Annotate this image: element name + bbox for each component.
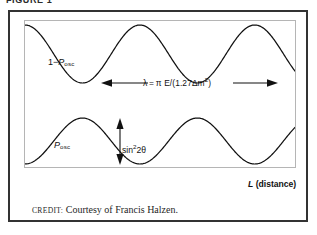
sin-text: sin bbox=[122, 145, 133, 155]
curve-label-prefix: 1− bbox=[48, 57, 58, 67]
credit-line: CREDIT: Courtesy of Francis Halzen. bbox=[32, 204, 178, 215]
wavelength-arrow-left-head bbox=[101, 79, 112, 87]
amplitude-arrow-bottom-head bbox=[116, 154, 123, 165]
mass-symbol: m bbox=[198, 78, 205, 88]
amplitude-arrow-top-head bbox=[116, 118, 123, 129]
wavelength-arrow-right-head bbox=[267, 79, 278, 87]
curve-label-subscript: osc bbox=[60, 143, 70, 150]
curve-label-subscript: osc bbox=[64, 60, 74, 67]
credit-text: Courtesy of Francis Halzen. bbox=[66, 204, 178, 215]
curve-label-one-minus-posc: 1−Posc bbox=[48, 57, 75, 67]
energy-term: E/(1.27 bbox=[164, 78, 192, 88]
curve-label-posc: Posc bbox=[54, 140, 70, 150]
figure-caption: FIGURE 1 bbox=[6, 0, 52, 5]
credit-label: CREDIT: bbox=[32, 206, 63, 215]
x-axis-unit: (distance) bbox=[256, 179, 297, 189]
wavelength-formula-label: λ = π E/(1.27Δm2) bbox=[143, 76, 211, 88]
amplitude-label: sin22θ bbox=[122, 143, 146, 155]
figure-box: 1−Posc Posc λ = π E/(1.27Δm2) sin22θ L (… bbox=[8, 10, 308, 222]
close-paren: ) bbox=[208, 78, 211, 88]
amplitude-arrow bbox=[116, 118, 123, 165]
angle-text: 2θ bbox=[136, 145, 146, 155]
x-axis-label: L (distance) bbox=[248, 179, 296, 189]
curve-one-minus-posc bbox=[25, 25, 295, 83]
